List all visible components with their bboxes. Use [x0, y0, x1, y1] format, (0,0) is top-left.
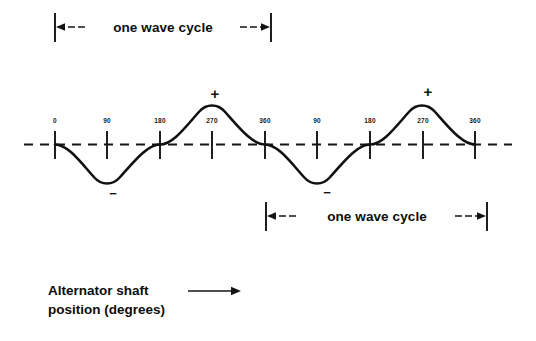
tick-label-2: 180 [154, 117, 165, 124]
axis-caption: Alternator shaft position (degrees) [48, 282, 165, 319]
tick-label-7: 270 [417, 117, 428, 124]
polarity-marker-negative-1: − [109, 187, 117, 200]
tick-label-5: 90 [313, 117, 321, 124]
left-arrowhead-icon [267, 212, 276, 220]
tick-label-6: 180 [364, 117, 375, 124]
tick-label-0: 0 [53, 117, 57, 124]
axis-caption-line-1: Alternator shaft [48, 282, 165, 301]
polarity-marker-positive-2: + [424, 84, 433, 99]
tick-label-8: 360 [469, 117, 480, 124]
top-cycle-label: one wave cycle [113, 20, 213, 35]
tick-label-3: 270 [206, 117, 217, 124]
polarity-marker-positive-1: + [211, 86, 220, 101]
left-arrowhead-icon [56, 23, 65, 31]
axis-caption-line-2: position (degrees) [48, 301, 165, 320]
tick-label-1: 90 [103, 117, 111, 124]
tick-label-4: 360 [259, 117, 270, 124]
figure-canvas: 0 90 180 270 360 90 180 270 360 + − + − … [0, 0, 536, 341]
right-arrowhead-icon [477, 212, 486, 220]
caption-direction-arrow [188, 287, 241, 295]
right-arrowhead-icon [261, 23, 270, 31]
bottom-cycle-label: one wave cycle [327, 209, 427, 224]
polarity-marker-negative-2: − [323, 186, 331, 199]
right-arrowhead-icon [231, 287, 241, 295]
